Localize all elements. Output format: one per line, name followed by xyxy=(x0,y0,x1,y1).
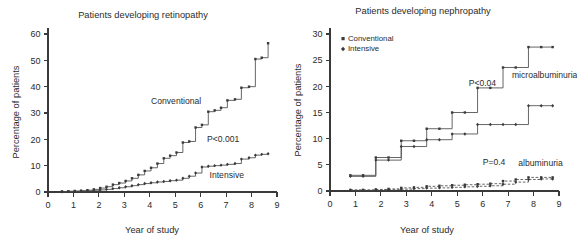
legend-marker-square xyxy=(341,37,344,40)
data-point-square xyxy=(220,107,222,109)
x-tick-label: 1 xyxy=(353,199,358,209)
data-point-diamond xyxy=(254,153,257,156)
chart-annotation: microalbuminuria xyxy=(512,70,577,80)
data-point-diamond xyxy=(194,171,197,174)
data-point-diamond xyxy=(181,177,184,180)
data-point-diamond xyxy=(162,180,165,183)
data-point-square xyxy=(240,87,242,89)
data-point-diamond xyxy=(220,163,223,166)
chart-annotation: Intensive xyxy=(210,170,245,180)
x-tick-label: 2 xyxy=(96,200,101,210)
data-point-square xyxy=(118,182,120,184)
y-tick-label: 0 xyxy=(35,187,40,197)
data-point-square xyxy=(425,128,427,130)
data-point-square xyxy=(267,42,269,44)
y-axis-title-nephropathy: Percentage of patients xyxy=(293,63,303,156)
y-tick-label: 40 xyxy=(30,82,40,92)
data-point-square xyxy=(105,186,107,188)
data-point-square xyxy=(515,66,517,68)
data-point-square xyxy=(112,183,114,185)
x-tick-label: 1 xyxy=(71,200,76,210)
panel-retinopathy: Patients developing retinopathy Percenta… xyxy=(0,0,290,239)
x-tick-label: 2 xyxy=(378,199,383,209)
data-point-square xyxy=(527,46,529,48)
chart-annotation: P=0.4 xyxy=(483,157,506,167)
data-point-diamond xyxy=(527,104,530,107)
data-point-square xyxy=(248,85,250,87)
data-point-diamond xyxy=(438,138,441,141)
data-point-diamond xyxy=(489,123,492,126)
data-point-square xyxy=(502,66,504,68)
data-point-diamond xyxy=(188,175,191,178)
retinopathy-annotations: ConventionalP<0.001Intensive xyxy=(151,96,244,180)
data-point-diamond xyxy=(476,123,479,126)
y-tick-label: 5 xyxy=(317,160,322,170)
x-tick-label: 7 xyxy=(224,200,229,210)
x-tick-label: 7 xyxy=(506,199,511,209)
data-point-square xyxy=(451,111,453,113)
data-point-diamond xyxy=(451,132,454,135)
x-tick-label: 3 xyxy=(404,199,409,209)
y-tick-label: 60 xyxy=(30,29,40,39)
data-point-diamond xyxy=(514,123,517,126)
data-point-square xyxy=(143,170,145,172)
series-path xyxy=(350,47,552,175)
nephropathy-annotations: P<0.04microalbuminuriaP=0.4albuminuria xyxy=(469,70,577,167)
nephropathy-series xyxy=(349,46,554,192)
x-tick-label: 5 xyxy=(173,200,178,210)
data-point-diamond xyxy=(267,152,270,155)
retinopathy-axes: 01234567890102030405060 xyxy=(30,28,279,210)
data-point-square xyxy=(169,154,171,156)
data-point-square xyxy=(131,177,133,179)
chart-title-nephropathy: Patients developing nephropathy xyxy=(355,6,491,16)
data-point-square xyxy=(124,180,126,182)
data-point-diamond xyxy=(412,145,415,148)
data-point-square xyxy=(254,58,256,60)
data-point-square xyxy=(188,140,190,142)
x-axis-title-retinopathy: Year of study xyxy=(125,225,179,235)
chart-annotation: P<0.04 xyxy=(469,78,497,88)
data-point-diamond xyxy=(200,165,203,168)
y-tick-label: 0 xyxy=(317,186,322,196)
data-point-diamond xyxy=(400,145,403,148)
data-point-square xyxy=(540,46,542,48)
legend-marker-diamond xyxy=(341,47,345,52)
x-tick-label: 8 xyxy=(249,200,254,210)
data-point-diamond xyxy=(175,178,178,181)
y-tick-label: 25 xyxy=(312,55,322,65)
legend-label: Conventional xyxy=(348,34,394,43)
data-point-square xyxy=(156,162,158,164)
data-point-square xyxy=(551,46,553,48)
data-point-diamond xyxy=(502,123,505,126)
chart-annotation: P<0.001 xyxy=(207,134,239,144)
y-tick-label: 30 xyxy=(312,29,322,39)
nephropathy-legend: ConventionalIntensive xyxy=(341,34,394,54)
data-point-diamond xyxy=(374,158,377,161)
data-point-square xyxy=(137,174,139,176)
data-point-square xyxy=(400,140,402,142)
data-point-square xyxy=(226,99,228,101)
x-tick-label: 6 xyxy=(480,199,485,209)
x-axis-title-nephropathy: Year of study xyxy=(400,225,454,235)
data-point-square xyxy=(502,180,504,182)
x-tick-label: 3 xyxy=(122,200,127,210)
data-point-diamond xyxy=(213,164,216,167)
data-point-diamond xyxy=(387,158,390,161)
data-point-square xyxy=(150,167,152,169)
y-tick-label: 30 xyxy=(30,108,40,118)
nephropathy-plot: Patients developing nephropathy Percenta… xyxy=(287,0,577,239)
y-tick-label: 50 xyxy=(30,56,40,66)
data-point-square xyxy=(213,109,215,111)
data-point-diamond xyxy=(463,132,466,135)
retinopathy-plot: Patients developing retinopathy Percenta… xyxy=(0,0,290,239)
x-tick-label: 9 xyxy=(556,199,561,209)
data-point-square xyxy=(163,157,165,159)
data-point-square xyxy=(207,110,209,112)
y-tick-label: 15 xyxy=(312,108,322,118)
x-tick-label: 0 xyxy=(45,200,50,210)
chart-annotation: Conventional xyxy=(151,96,201,106)
data-point-diamond xyxy=(551,104,554,107)
data-point-square xyxy=(375,156,377,158)
x-tick-label: 6 xyxy=(198,200,203,210)
chart-title-retinopathy: Patients developing retinopathy xyxy=(78,10,208,20)
